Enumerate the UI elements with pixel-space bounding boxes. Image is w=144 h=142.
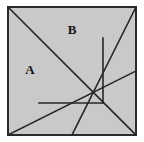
piece-label-a: A [25,62,35,77]
tangram-figure: A B [0,0,144,142]
piece-label-b: B [68,22,77,37]
tangram-diagram: A B [0,0,144,142]
